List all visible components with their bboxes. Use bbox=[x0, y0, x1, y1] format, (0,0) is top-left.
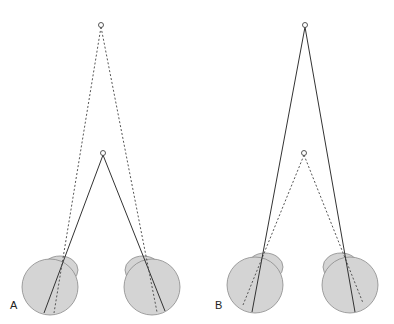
panel-label-b: B bbox=[215, 299, 222, 311]
panel-label-a: A bbox=[10, 299, 17, 311]
near-target-icon-a bbox=[101, 151, 106, 156]
far-target-icon-a bbox=[99, 23, 104, 28]
near-target-icon-b bbox=[302, 151, 307, 156]
eye-globe-left-b bbox=[227, 257, 283, 313]
binocular-fixation-diagram bbox=[0, 0, 394, 324]
far-target-icon-b bbox=[303, 23, 308, 28]
eye-globe-left-a bbox=[22, 259, 78, 315]
